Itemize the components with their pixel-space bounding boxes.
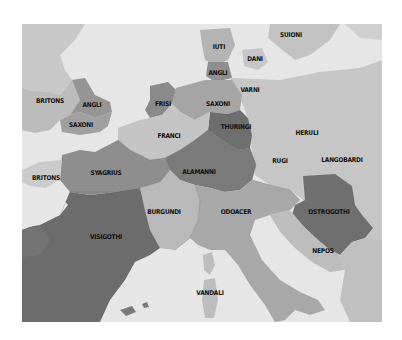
label-saxoni-britain: SAXONI: [69, 122, 93, 129]
label-suioni: SUIONI: [280, 32, 302, 39]
label-burgundi: BURGUNDI: [147, 209, 181, 216]
label-nepos: NEPOS: [312, 248, 333, 255]
label-langobardi: LANGOBARDI: [321, 157, 362, 164]
label-vandali: VANDALI: [196, 290, 223, 297]
label-franci: FRANCI: [157, 133, 180, 140]
label-saxoni-continent: SAXONI: [206, 101, 230, 108]
label-thuringi: THURINGI: [221, 124, 252, 131]
label-visigothi: VISIGOTHI: [90, 234, 122, 241]
label-heruli: HERULI: [296, 130, 319, 137]
label-angli-north: ANGLI: [208, 70, 227, 77]
label-rugi: RUGI: [272, 158, 287, 165]
label-odoacer: ODOACER: [221, 209, 252, 216]
label-dani: DANI: [247, 56, 263, 63]
label-frisi: FRISI: [155, 101, 171, 108]
label-britons-brittany: BRITONS: [32, 175, 60, 182]
label-alamanni: ALAMANNI: [182, 169, 216, 176]
label-varni: VARNI: [240, 87, 259, 94]
label-angli-britain: ANGLI: [82, 102, 101, 109]
label-iuti: IUTI: [213, 44, 225, 51]
label-britons-north: BRITONS: [36, 98, 64, 105]
label-ostrogothi: OSTROGOTHI: [308, 209, 349, 216]
label-syagrius: SYAGRIUS: [90, 170, 121, 177]
region-balkans: [340, 238, 382, 322]
